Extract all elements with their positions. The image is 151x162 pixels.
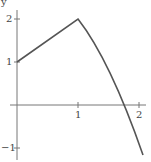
function-curve xyxy=(17,19,143,155)
x-tick-label-1: 1 xyxy=(75,109,81,120)
y-tick-label-2: 2 xyxy=(6,13,12,24)
y-tick-label-1: 1 xyxy=(6,56,12,67)
y-axis-label: y xyxy=(0,0,7,7)
function-graph: y 2 1 −1 1 2 xyxy=(0,0,151,162)
y-tick-label-neg1: −1 xyxy=(1,142,16,153)
x-tick-label-2: 2 xyxy=(136,109,142,120)
